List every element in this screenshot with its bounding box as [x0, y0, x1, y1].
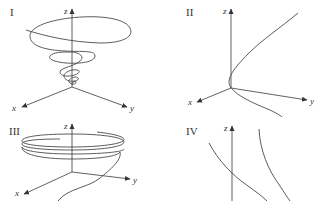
z-axis-label: z [63, 6, 68, 16]
panel-label-III: III [9, 125, 20, 137]
y-axis-label: y [129, 103, 134, 113]
spiral-curve [26, 17, 131, 85]
z-axis-label: z [223, 123, 228, 133]
panel-III: III z x y [9, 121, 137, 201]
curve-left [209, 143, 267, 201]
curves-diagram: I z x y II z x y III z x y IV z [0, 0, 323, 201]
x-axis [24, 172, 72, 194]
panel-label-I: I [10, 6, 14, 18]
helix-curve [22, 132, 124, 201]
x-axis [22, 87, 72, 107]
y-axis [72, 87, 127, 107]
y-axis [231, 88, 307, 100]
z-axis-label: z [222, 6, 227, 16]
y-axis [72, 172, 130, 179]
panel-label-IV: IV [186, 125, 198, 137]
parabola-curve [229, 13, 298, 110]
x-axis [197, 88, 231, 102]
curve-top-fragment [270, 110, 282, 117]
panel-II: II z x y [186, 6, 314, 110]
x-axis-label: x [14, 188, 19, 198]
x-axis-label: x [187, 97, 192, 107]
panel-IV: IV z [186, 110, 290, 201]
x-axis-label: x [11, 103, 16, 113]
curve-right [259, 129, 290, 201]
y-axis-label: y [309, 96, 314, 106]
y-axis-label: y [132, 175, 137, 185]
panel-I: I z x y [10, 6, 134, 113]
z-axis-label: z [63, 121, 68, 131]
panel-label-II: II [186, 6, 194, 18]
